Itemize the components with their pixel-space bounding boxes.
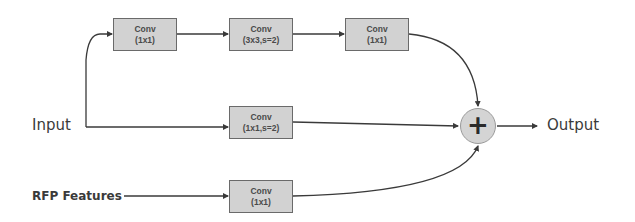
- sum-node: +: [460, 108, 496, 144]
- shortcut-conv-node: Conv (1x1,s=2): [229, 106, 293, 139]
- node-title: Conv: [134, 24, 155, 35]
- edge-conv3-to-sum: [409, 34, 478, 106]
- edge-shortcut-to-sum: [293, 122, 458, 126]
- conv-1x1-node: Conv (1x1): [113, 18, 177, 51]
- edge-input-to-conv1: [86, 34, 112, 127]
- node-title: Conv: [250, 24, 271, 35]
- node-param: (1x1): [135, 35, 155, 46]
- node-title: Conv: [366, 24, 387, 35]
- node-param: (3x3,s=2): [243, 35, 280, 46]
- node-param: (1x1): [251, 197, 271, 208]
- output-label: Output: [547, 116, 599, 134]
- node-title: Conv: [250, 112, 271, 123]
- conv-3x3-stride2-node: Conv (3x3,s=2): [229, 18, 293, 51]
- plus-icon: +: [467, 112, 489, 138]
- rfp-conv-node: Conv (1x1): [229, 180, 293, 213]
- rfp-features-label: RFP Features: [32, 189, 122, 203]
- edge-rfpconv-to-sum: [293, 146, 478, 196]
- node-param: (1x1,s=2): [243, 123, 280, 134]
- conv-1x1-expand-node: Conv (1x1): [345, 18, 409, 51]
- input-label: Input: [32, 116, 71, 134]
- node-title: Conv: [250, 186, 271, 197]
- node-param: (1x1): [367, 35, 387, 46]
